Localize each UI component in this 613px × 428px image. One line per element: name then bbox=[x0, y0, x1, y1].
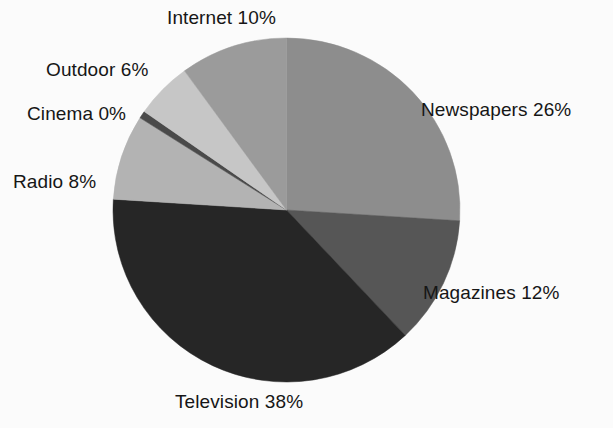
pie-label-radio: Radio 8% bbox=[13, 172, 96, 193]
pie-label-outdoor: Outdoor 6% bbox=[46, 60, 148, 81]
pie-slice-group bbox=[113, 38, 460, 382]
pie-label-newspapers: Newspapers 26% bbox=[421, 100, 571, 121]
pie-label-television: Television 38% bbox=[175, 392, 303, 413]
pie-slice-newspapers bbox=[287, 38, 461, 221]
pie-label-cinema: Cinema 0% bbox=[27, 104, 126, 125]
pie-label-magazines: Magazines 12% bbox=[423, 283, 560, 304]
pie-chart: Newspapers 26% Magazines 12% Television … bbox=[0, 0, 613, 428]
pie-label-internet: Internet 10% bbox=[167, 8, 276, 29]
